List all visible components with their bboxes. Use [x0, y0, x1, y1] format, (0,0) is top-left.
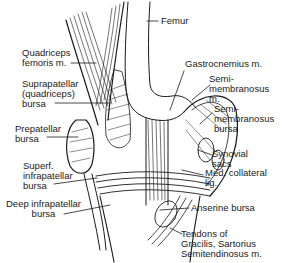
- meniscus-lines: [96, 172, 210, 196]
- label-synovial-sacs: Synovial sacs: [212, 149, 248, 169]
- label-superf-infrapatellar-bursa: Superf. infrapatellar bursa: [23, 161, 73, 191]
- label-prepatellar-bursa: Prepatellar bursa: [15, 124, 61, 144]
- label-gastrocnemius: Gastrocnemius m.: [185, 59, 262, 69]
- patellar-tendon: [84, 174, 100, 250]
- label-quadriceps-femoris: Quadriceps femoris m.: [22, 48, 71, 68]
- label-semimembranosus-bursa: Semi- membranosus bursa: [214, 104, 274, 134]
- label-anserine-bursa: Anserine bursa: [191, 203, 255, 213]
- label-med-collateral-lig: Med. collateral lig.: [205, 168, 267, 188]
- collateral-ligament: [148, 120, 165, 200]
- label-tendons: Tendons of Gracilis, Sartorius Semitendi…: [181, 229, 262, 259]
- label-femur: Femur: [161, 16, 188, 26]
- label-semimembranosus-m: Semi- membranosus m.: [209, 74, 269, 104]
- knee-anatomy-figure: Femur Quadriceps femoris m. Suprapatella…: [0, 0, 282, 263]
- label-deep-infrapatellar-bursa: Deep infrapatellar bursa: [6, 199, 81, 219]
- label-suprapatellar-bursa: Suprapatellar (quadriceps) bursa: [22, 79, 79, 109]
